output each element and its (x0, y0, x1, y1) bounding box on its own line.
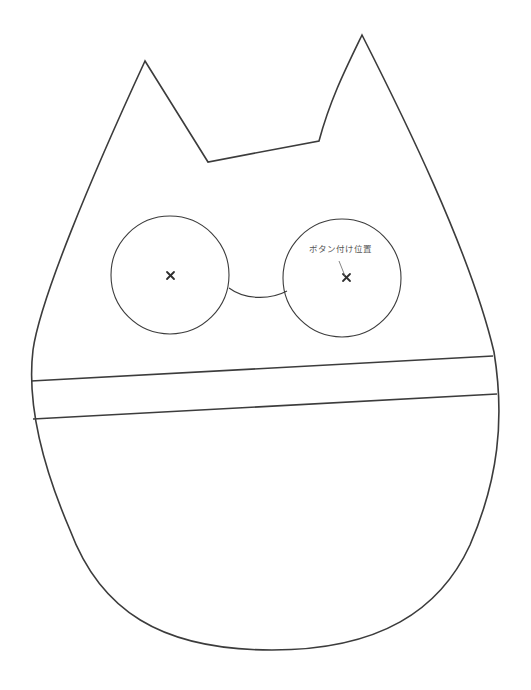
annotation-leader-line (339, 261, 345, 276)
nose-bridge-arc (229, 288, 287, 297)
right-eye-circle (283, 219, 401, 337)
right-button-mark-icon (343, 274, 350, 281)
band-line-bottom (33, 394, 497, 419)
left-button-mark-icon (167, 272, 174, 279)
button-position-label: ボタン付け位置 (309, 242, 372, 254)
body-outline (32, 35, 499, 650)
pattern-canvas (0, 0, 531, 690)
band-line-top (31, 356, 493, 381)
